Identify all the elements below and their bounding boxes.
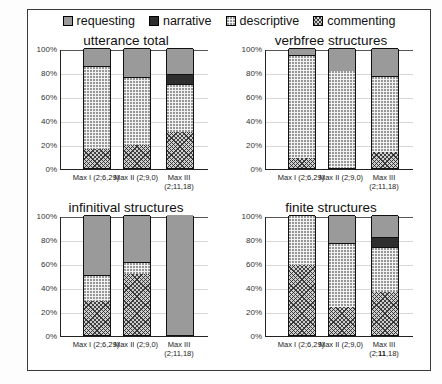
narrative-swatch (149, 16, 159, 26)
legend-item-requesting: requesting (63, 15, 135, 28)
legend-label-descriptive: descriptive (240, 15, 300, 28)
bar-segment-requesting (167, 48, 193, 74)
plot-box (265, 217, 413, 337)
y-tick-label: 20% (246, 142, 262, 150)
bar-segment-descriptive (372, 247, 398, 291)
legend-item-narrative: narrative (149, 15, 212, 28)
bar-segment-narrative (372, 237, 398, 248)
bar-segment-commenting (124, 145, 150, 168)
bar-segment-descriptive (289, 215, 315, 265)
x-axis: Max I (2;6,29)Max II (2;9,0)Max III (2;1… (60, 171, 208, 197)
bar-segment-commenting (124, 274, 150, 335)
x-tick-label: Max I (2;6,29) (278, 173, 324, 182)
stacked-bar (123, 49, 151, 169)
y-tick-label: 40% (246, 285, 262, 293)
x-tick-label: Max III (2;11,18) (164, 173, 193, 191)
bar-segment-commenting (372, 152, 398, 168)
y-tick-label: 20% (41, 309, 57, 317)
panel-infinitival-structures: infinitival structures0%20%40%60%80%100%… (33, 200, 219, 350)
panel-verbfree-structures: verbfree structures0%20%40%60%80%100%Max… (238, 33, 424, 183)
x-tick-label: Max II (2;9,0) (319, 173, 363, 182)
legend-label-commenting: commenting (327, 15, 395, 28)
panel-utterance-total: utterance total0%20%40%60%80%100%Max I (… (33, 33, 219, 183)
bar-segment-commenting (167, 132, 193, 168)
y-tick-label: 20% (41, 142, 57, 150)
y-tick-label: 100% (37, 213, 57, 221)
panel-title: finite structures (238, 200, 424, 215)
x-tick-label: Max II (2;9,0) (114, 173, 158, 182)
bar-segment-requesting (84, 215, 110, 275)
commenting-swatch (313, 16, 323, 26)
y-axis: 0%20%40%60%80%100% (238, 50, 264, 170)
bar-segment-commenting (289, 158, 315, 168)
stacked-bar (288, 216, 316, 336)
panel-title: infinitival structures (33, 200, 219, 215)
plot-area: 0%20%40%60%80%100%Max I (2;6,29)Max II (… (238, 217, 413, 365)
y-tick-label: 80% (246, 70, 262, 78)
bar-segment-requesting (84, 48, 110, 66)
bar-segment-commenting (329, 307, 355, 335)
x-tick-label: Max III (2;11,18) (369, 173, 398, 191)
legend-label-requesting: requesting (77, 15, 135, 28)
requesting-swatch (63, 16, 73, 26)
stacked-bar (83, 216, 111, 336)
y-tick-label: 80% (41, 70, 57, 78)
plot-area: 0%20%40%60%80%100%Max I (2;6,29)Max II (… (238, 50, 413, 198)
bar-segment-requesting (124, 48, 150, 77)
y-tick-label: 0% (250, 333, 262, 341)
plot-box (60, 217, 208, 337)
x-tick-label: Max I (2;6,29) (73, 340, 119, 349)
bar-segment-requesting (329, 48, 355, 71)
x-axis: Max I (2;6,29)Max II (2;9,0)Max III (2;1… (265, 171, 413, 197)
y-tick-label: 100% (37, 46, 57, 54)
y-axis: 0%20%40%60%80%100% (33, 217, 59, 337)
descriptive-swatch (226, 16, 236, 26)
x-tick-label: Max III(2;11,18) (369, 340, 399, 358)
bar-segment-descriptive (329, 243, 355, 308)
bar-segment-requesting (124, 215, 150, 262)
bar-segment-requesting (289, 48, 315, 55)
y-tick-label: 0% (45, 166, 57, 174)
y-tick-label: 0% (45, 333, 57, 341)
x-axis: Max I (2;6,29)Max II (2;9,0)Max III (2;1… (60, 338, 208, 364)
y-tick-label: 60% (41, 261, 57, 269)
y-tick-label: 0% (250, 166, 262, 174)
panel-title: utterance total (33, 33, 219, 48)
plot-area: 0%20%40%60%80%100%Max I (2;6,29)Max II (… (33, 50, 208, 198)
y-tick-label: 60% (246, 94, 262, 102)
plot-box (265, 50, 413, 170)
bar-segment-descriptive (329, 71, 355, 168)
stacked-bar (371, 216, 399, 336)
y-axis: 0%20%40%60%80%100% (33, 50, 59, 170)
x-tick-label: Max II (2;9,0) (319, 340, 363, 349)
y-tick-label: 40% (246, 118, 262, 126)
y-tick-label: 60% (246, 261, 262, 269)
x-tick-label: Max I (2;6,29) (73, 173, 119, 182)
y-axis: 0%20%40%60%80%100% (238, 217, 264, 337)
y-tick-label: 40% (41, 285, 57, 293)
chart-legend: requestingnarrativedescriptivecommenting (27, 11, 431, 31)
legend-label-narrative: narrative (163, 15, 212, 28)
bar-segment-descriptive (124, 262, 150, 274)
y-tick-label: 60% (41, 94, 57, 102)
bar-segment-requesting (372, 48, 398, 76)
bar-segment-requesting (372, 215, 398, 237)
stacked-bar (328, 216, 356, 336)
y-tick-label: 80% (246, 237, 262, 245)
bar-segment-commenting (289, 265, 315, 335)
y-tick-label: 20% (246, 309, 262, 317)
stacked-bar (83, 49, 111, 169)
legend-item-descriptive: descriptive (226, 15, 300, 28)
x-tick-label: Max II (2;9,0) (114, 340, 158, 349)
stacked-bar (288, 49, 316, 169)
bar-segment-descriptive (84, 275, 110, 301)
y-tick-label: 40% (41, 118, 57, 126)
panel-finite-structures: finite structures0%20%40%60%80%100%Max I… (238, 200, 424, 350)
bar-segment-descriptive (84, 66, 110, 149)
stacked-bar (371, 49, 399, 169)
x-axis: Max I (2;6,29)Max II (2;9,0)Max III(2;11… (265, 338, 413, 364)
plot-area: 0%20%40%60%80%100%Max I (2;6,29)Max II (… (33, 217, 208, 365)
bar-segment-requesting (329, 215, 355, 243)
bar-segment-commenting (84, 149, 110, 168)
legend-item-commenting: commenting (313, 15, 395, 28)
